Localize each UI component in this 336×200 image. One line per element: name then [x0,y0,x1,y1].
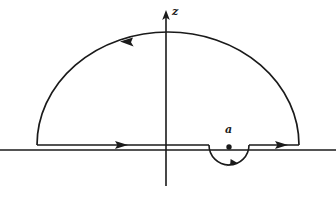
pole-marker-dot [226,144,231,149]
contour-diagram-svg [0,0,336,200]
z-axis-label: z [172,6,178,17]
large-semicircle-arc [37,32,299,145]
contour-integration-figure: z a [0,0,336,200]
pole-label-a: a [225,124,232,135]
